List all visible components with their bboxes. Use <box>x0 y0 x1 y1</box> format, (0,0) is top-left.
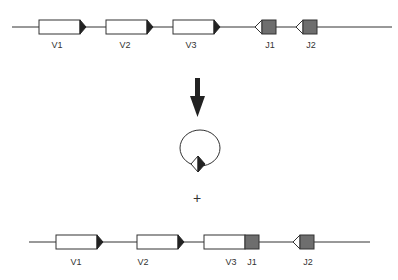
rss-triangle-icon <box>296 20 303 34</box>
segment-v1-bottom: V1 <box>56 235 103 267</box>
segment-j2-top: J2 <box>296 20 317 50</box>
segment-label: V3 <box>225 257 236 267</box>
segment-label: V2 <box>119 40 130 50</box>
plus-sign: + <box>193 190 201 206</box>
segment-v3-top: V3 <box>173 20 220 50</box>
segment-v3-j1-joined: V3 J1 <box>204 235 259 267</box>
segment-label: V1 <box>70 257 81 267</box>
segment-v1-top: V1 <box>39 20 86 50</box>
rss-triangle-icon <box>97 235 103 249</box>
segment-label: J2 <box>303 257 313 267</box>
rss-triangle-icon <box>147 20 153 34</box>
recombination-diagram: V1 V2 V3 J1 J2 <box>0 0 398 280</box>
rss-triangle-icon <box>214 20 220 34</box>
segment-label: V3 <box>185 40 196 50</box>
signal-joint-diamond-icon <box>191 156 205 172</box>
segment-label: J2 <box>306 40 316 50</box>
down-arrow-icon <box>190 78 205 117</box>
excised-circle <box>180 130 220 172</box>
germline-row: V1 V2 V3 J1 J2 <box>12 20 392 50</box>
segment-label: J1 <box>265 40 275 50</box>
segment-label: V1 <box>51 40 62 50</box>
rearranged-row: V1 V2 V3 J1 J2 <box>29 235 370 267</box>
segment-v2-top: V2 <box>106 20 153 50</box>
segment-j2-bottom: J2 <box>293 235 314 267</box>
rss-triangle-icon <box>178 235 184 249</box>
segment-label: V2 <box>137 257 148 267</box>
segment-j1-top: J1 <box>255 20 276 50</box>
rss-triangle-icon <box>293 235 300 249</box>
rss-triangle-icon <box>80 20 86 34</box>
rss-triangle-icon <box>255 20 262 34</box>
segment-v2-bottom: V2 <box>137 235 184 267</box>
segment-label: J1 <box>247 257 257 267</box>
